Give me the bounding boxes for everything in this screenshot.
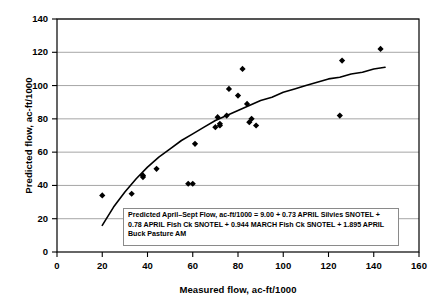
y-tick-label: 60: [18, 146, 48, 157]
x-tick-label: 160: [404, 260, 434, 271]
x-axis-ticks: [57, 252, 419, 257]
chart-figure: Predicted flow, ac-ft/1000 Measured flow…: [0, 0, 435, 305]
x-axis-title: Measured flow, ac-ft/1000: [57, 284, 419, 295]
x-tick-label: 140: [359, 260, 389, 271]
y-tick-label: 20: [18, 213, 48, 224]
equation-line-3: Buck Pasture AM: [128, 230, 395, 240]
y-tick-label: 100: [18, 80, 48, 91]
y-tick-label: 40: [18, 179, 48, 190]
x-tick-label: 40: [133, 260, 163, 271]
y-tick-label: 0: [18, 246, 48, 257]
y-tick-label: 80: [18, 113, 48, 124]
equation-annotation-box: Predicted April–Sept Flow, ac-ft/1000 = …: [123, 208, 399, 246]
x-tick-label: 60: [178, 260, 208, 271]
x-tick-label: 120: [314, 260, 344, 271]
equation-line-1: Predicted April–Sept Flow, ac-ft/1000 = …: [128, 211, 395, 221]
x-tick-label: 20: [87, 260, 117, 271]
x-tick-label: 0: [42, 260, 72, 271]
y-tick-label: 120: [18, 46, 48, 57]
x-tick-label: 80: [223, 260, 253, 271]
y-axis-ticks: [52, 19, 57, 252]
y-tick-label: 140: [18, 13, 48, 24]
x-tick-label: 100: [268, 260, 298, 271]
equation-line-2: 0.78 APRIL Fish Ck SNOTEL + 0.944 MARCH …: [128, 221, 395, 231]
